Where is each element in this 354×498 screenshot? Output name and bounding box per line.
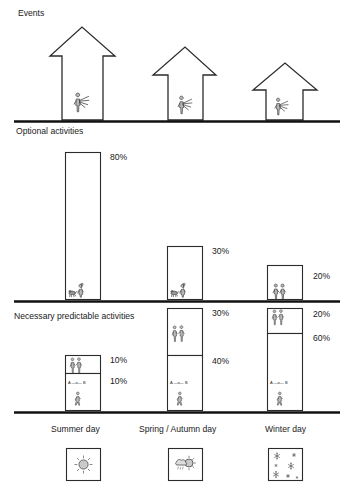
- ab-label-spring-autumn: A —o— B: [170, 380, 188, 385]
- optional-bar-winter: [268, 266, 303, 300]
- necessary-top-value-winter: 20%: [313, 309, 331, 319]
- column-label-summer: Summer day: [51, 424, 100, 434]
- necessary-bar-summer: A —o— B: [66, 356, 101, 411]
- optional-bar-summer: [66, 153, 101, 300]
- optional-value-spring-autumn: 30%: [212, 246, 230, 256]
- activities-by-season-diagram: Events Optional activities Necessary pre…: [0, 0, 354, 498]
- optional-bar-spring-autumn: [168, 247, 203, 300]
- events-arrow-spring-autumn: [153, 47, 216, 120]
- necessary-bar-spring-autumn: A —o— B: [168, 309, 203, 411]
- necessary-top-value-summer: 10%: [110, 355, 128, 365]
- weather-box-winter: [269, 449, 303, 481]
- optional-value-winter: 20%: [313, 271, 331, 281]
- weather-box-spring-autumn: [169, 449, 203, 481]
- section-label-events: Events: [18, 8, 44, 18]
- events-arrow-summer: [50, 27, 115, 120]
- ab-label-summer: A —o— B: [68, 380, 86, 385]
- events-arrow-winter: [253, 63, 317, 120]
- optional-value-summer: 80%: [110, 152, 128, 162]
- ab-label-winter: A —o— B: [270, 380, 288, 385]
- necessary-bottom-value-winter: 60%: [313, 333, 331, 343]
- section-label-optional: Optional activities: [16, 126, 83, 136]
- diagram-canvas: Events Optional activities Necessary pre…: [0, 0, 354, 498]
- sun-icon: [75, 456, 93, 474]
- necessary-top-value-spring-autumn: 30%: [212, 308, 230, 318]
- weather-box-summer: [67, 449, 101, 481]
- necessary-bar-winter: A —o— B: [268, 309, 303, 411]
- column-label-spring-autumn: Spring / Autumn day: [139, 424, 217, 434]
- necessary-bottom-value-summer: 10%: [110, 376, 128, 386]
- section-label-necessary: Necessary predictable activities: [14, 311, 134, 321]
- column-label-winter: Winter day: [265, 424, 307, 434]
- necessary-bottom-value-spring-autumn: 40%: [212, 356, 230, 366]
